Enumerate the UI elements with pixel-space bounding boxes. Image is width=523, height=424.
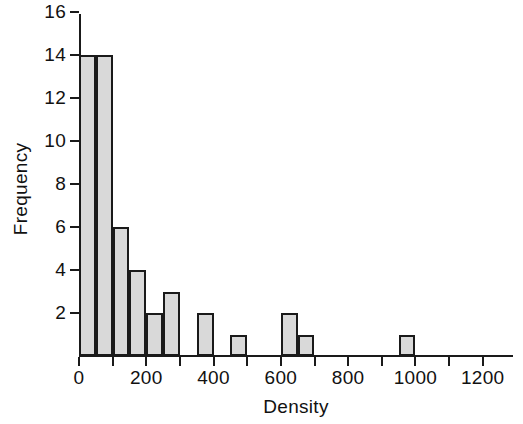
x-axis-tick [482,357,484,366]
histogram-bar [163,292,180,357]
histogram-figure: 246810121416 020040060080010001200 Densi… [0,0,523,424]
x-axis-tick [280,357,282,366]
y-axis-tick [70,97,79,99]
y-axis-tick [70,11,79,13]
y-axis-tick-label: 16 [20,2,66,21]
x-axis-tick [314,357,316,366]
x-axis-title: Density [79,396,513,418]
y-axis-tick-label: 12 [20,88,66,107]
x-axis-tick [448,357,450,366]
histogram-bar [96,55,113,356]
y-axis-tick-label: 2 [20,303,66,322]
histogram-bar [298,335,315,357]
x-axis-tick [179,357,181,366]
histogram-bar [230,335,247,357]
y-axis-tick [70,312,79,314]
y-axis-tick [70,226,79,228]
y-axis-tick-label: 14 [20,45,66,64]
histogram-bar [113,227,130,356]
y-axis-line [79,14,81,356]
histogram-bar [129,270,146,356]
histogram-bar [197,313,214,356]
x-axis-tick [78,357,80,366]
x-axis-tick [246,357,248,366]
x-axis-tick [112,357,114,366]
y-axis-tick [70,183,79,185]
x-axis-tick-label: 1200 [443,368,523,389]
x-axis-tick [145,357,147,366]
y-axis-tick [70,269,79,271]
histogram-bar [399,335,416,357]
histogram-bar [79,55,96,356]
x-axis-tick [347,357,349,366]
y-axis-tick [70,54,79,56]
x-axis-tick [381,357,383,366]
x-axis-tick [213,357,215,366]
x-axis-tick [414,357,416,366]
histogram-bar [146,313,163,356]
histogram-bar [281,313,298,356]
y-axis-tick [70,140,79,142]
y-axis-title: Frequency [10,109,32,269]
